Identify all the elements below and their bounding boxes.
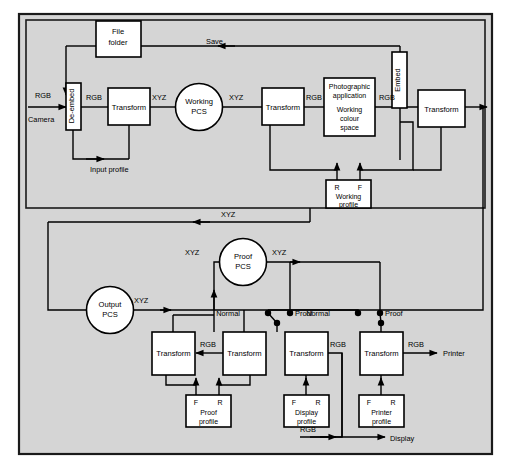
diagram-frame [19, 14, 492, 454]
display-profile-tag-r: R [315, 399, 320, 406]
label-display-rgb-out: RGB [300, 425, 316, 434]
working-pcs-label-1: Working [185, 97, 213, 106]
switch1-proof-contact [287, 310, 293, 316]
de-embed-box[interactable]: De-embed [66, 83, 81, 130]
transform-input-box[interactable]: Transform [108, 88, 150, 125]
embed-label: Embed [393, 68, 402, 91]
transform-display-label: Transform [289, 349, 323, 358]
printer-profile-box[interactable]: F R Printer profile [359, 395, 404, 427]
label-camera: Camera [28, 115, 55, 124]
transform-proof-a-box[interactable]: Transform [152, 332, 195, 375]
transform-working-box[interactable]: Transform [262, 88, 304, 125]
working-profile-label-1: Working [336, 193, 362, 201]
proof-pcs-label-2: PCS [235, 262, 251, 271]
switch1-pivot [274, 320, 280, 326]
printer-profile-tag-r: R [390, 399, 395, 406]
transform-display-box[interactable]: Transform [285, 332, 328, 375]
working-profile-box[interactable]: R F Working profile [326, 180, 371, 209]
proof-profile-label-1: Proof [200, 409, 217, 416]
label-switch2-proof: Proof [385, 309, 404, 318]
file-folder-label-1: File [112, 27, 124, 36]
transform-printer-label: Transform [364, 349, 398, 358]
label-feedback-xyz: XYZ [221, 210, 236, 219]
photographic-application-box[interactable]: Photographic application Working colour … [324, 78, 375, 136]
label-switch2-normal: Normal [306, 309, 330, 318]
label-display-rgb: RGB [330, 340, 346, 349]
label-transform2-rgb: RGB [306, 93, 322, 102]
label-input-profile: Input profile [90, 165, 129, 174]
switch1-normal-contact [265, 310, 271, 316]
label-proof-rgb: RGB [200, 340, 216, 349]
photo-app-label-3: Working [337, 106, 363, 114]
transform-output-top-label: Transform [424, 105, 458, 114]
file-folder-box[interactable]: File folder [96, 21, 141, 57]
photo-app-label-4: colour [340, 115, 360, 122]
working-profile-label-2: profile [339, 201, 358, 209]
working-profile-tag-r: R [334, 184, 339, 191]
label-outputpcs-xyz: XYZ [134, 296, 149, 305]
working-pcs-node[interactable]: Working PCS [176, 84, 223, 131]
label-workingpcs-xyz: XYZ [229, 93, 244, 102]
label-printer-rgb: RGB [408, 340, 424, 349]
output-pcs-label-2: PCS [102, 310, 118, 319]
file-folder-label-2: folder [109, 38, 128, 47]
transform-input-label: Transform [112, 103, 146, 112]
output-pcs-node[interactable]: Output PCS [87, 287, 134, 334]
printer-profile-tag-f: F [367, 399, 371, 406]
transform-printer-box[interactable]: Transform [360, 332, 403, 375]
de-embed-label: De-embed [67, 89, 76, 124]
label-proofpcs-out-xyz: XYZ [272, 248, 287, 257]
transform-proof-b-label: Transform [227, 349, 261, 358]
proof-profile-tag-r: R [217, 399, 222, 406]
proof-profile-tag-f: F [194, 399, 198, 406]
output-pcs-label-1: Output [99, 300, 123, 309]
label-camera-rgb: RGB [35, 91, 51, 100]
colour-management-workflow-diagram: File folder De-embed Transform Working P… [0, 0, 509, 473]
working-pcs-label-2: PCS [191, 107, 207, 116]
photo-app-label-1: Photographic [329, 83, 371, 91]
diagram-canvas: File folder De-embed Transform Working P… [0, 0, 509, 473]
display-profile-label-1: Display [295, 409, 318, 417]
working-profile-tag-f: F [358, 184, 362, 191]
proof-profile-label-2: profile [199, 418, 218, 426]
photo-app-label-2: application [333, 92, 367, 100]
switch2-pivot [378, 320, 384, 326]
display-profile-tag-f: F [292, 399, 296, 406]
proof-profile-box[interactable]: F R Proof profile [186, 395, 231, 427]
printer-profile-label-2: profile [372, 418, 391, 426]
label-display-out: Display [390, 434, 415, 443]
printer-profile-label-1: Printer [371, 409, 392, 416]
label-printer-out: Printer [443, 349, 465, 358]
label-photoapp-rgb: RGB [379, 93, 395, 102]
label-transform1-xyz: XYZ [152, 93, 167, 102]
transform-proof-a-label: Transform [156, 349, 190, 358]
transform-proof-b-box[interactable]: Transform [223, 332, 266, 375]
label-save: Save [206, 37, 223, 46]
switch2-normal-contact [355, 310, 361, 316]
transform-working-label: Transform [266, 103, 300, 112]
label-switch1-normal: Normal [216, 309, 240, 318]
label-deembed-rgb: RGB [86, 93, 102, 102]
proof-pcs-label-1: Proof [234, 252, 253, 261]
photo-app-label-5: space [340, 124, 359, 132]
display-profile-box[interactable]: F R Display profile [284, 395, 329, 427]
switch2-proof-contact [377, 310, 383, 316]
label-proofpcs-in-xyz: XYZ [185, 248, 200, 257]
proof-pcs-node[interactable]: Proof PCS [220, 239, 267, 286]
transform-output-top-box[interactable]: Transform [418, 90, 465, 127]
